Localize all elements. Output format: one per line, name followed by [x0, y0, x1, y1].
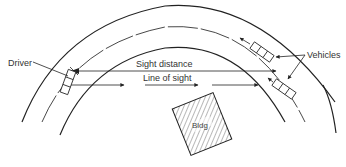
building-label: Bldg: [192, 121, 208, 130]
sight-distance-label: Sight distance: [136, 59, 193, 69]
vehicles-leader-1: [276, 55, 305, 57]
target-vehicle: [272, 79, 296, 99]
outer-road-edge-lower: [323, 85, 336, 133]
driver-vehicle: [60, 69, 76, 94]
opposing-vehicle-direction: [240, 38, 250, 44]
vehicles-leader-2: [288, 55, 305, 79]
driver-leader: [33, 62, 68, 76]
target-vehicle-direction: [268, 78, 273, 82]
sight-distance-diagram: Driver Sight distance Line of sight Vehi…: [0, 0, 346, 167]
line-of-sight-label: Line of sight: [143, 73, 192, 83]
driver-label: Driver: [8, 58, 32, 68]
opposing-vehicle: [250, 42, 274, 62]
vehicles-label: Vehicles: [307, 50, 341, 60]
